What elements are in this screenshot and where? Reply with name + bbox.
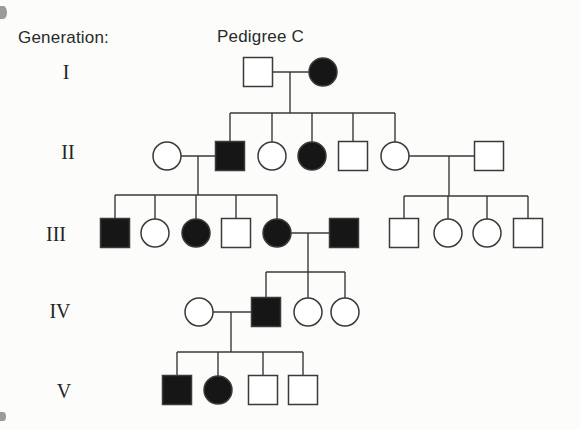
person-II-5-square <box>339 142 368 171</box>
pedigree-chart: IIIIIIIVV <box>0 0 580 430</box>
person-III-4-square <box>222 219 251 248</box>
person-III-9-circle <box>473 219 501 247</box>
person-IV-4-circle <box>331 298 359 326</box>
person-II-6-circle <box>381 142 409 170</box>
generation-numeral-I: I <box>63 61 70 83</box>
person-V-2-circle <box>204 376 232 404</box>
generation-numeral-IV: IV <box>49 300 71 322</box>
person-III-7-square <box>390 219 419 248</box>
person-III-1-square <box>101 219 130 248</box>
generation-numeral-II: II <box>61 141 74 163</box>
generation-numeral-V: V <box>57 380 72 402</box>
scan-artifact <box>0 6 7 19</box>
person-II-1-circle <box>153 142 181 170</box>
person-II-2-square <box>216 142 245 171</box>
person-II-7-square <box>475 142 504 171</box>
person-IV-2-square <box>252 298 281 327</box>
person-III-6-square <box>330 219 359 248</box>
pedigree-figure: Generation: Pedigree C IIIIIIIVV <box>0 0 580 430</box>
person-III-2-circle <box>141 219 169 247</box>
person-II-3-circle <box>258 142 286 170</box>
person-V-1-square <box>163 376 192 405</box>
person-III-5-circle <box>263 219 291 247</box>
person-III-3-circle <box>182 219 210 247</box>
person-III-10-square <box>514 219 543 248</box>
person-V-3-square <box>249 376 278 405</box>
person-IV-1-circle <box>185 298 213 326</box>
scan-artifact <box>0 412 6 421</box>
generation-numeral-III: III <box>46 223 66 245</box>
person-III-8-circle <box>434 219 462 247</box>
person-I-2-circle <box>309 58 337 86</box>
person-V-4-square <box>289 376 318 405</box>
person-IV-3-circle <box>294 298 322 326</box>
person-II-4-circle <box>298 142 326 170</box>
person-I-1-square <box>244 58 273 87</box>
